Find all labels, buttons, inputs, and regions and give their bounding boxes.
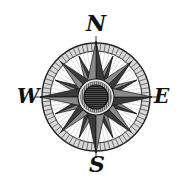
- north-label: N: [86, 12, 106, 34]
- east-label: E: [154, 86, 169, 106]
- west-label: W: [17, 86, 39, 106]
- south-label: S: [89, 153, 105, 175]
- center-hub: [78, 79, 114, 115]
- compass-rose-figure: N W E S: [0, 0, 185, 190]
